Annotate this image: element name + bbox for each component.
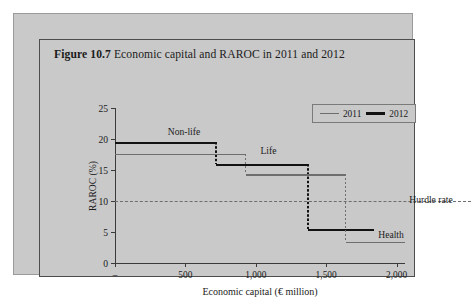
y-tick — [111, 139, 115, 140]
plot-area: RAROC (%) Economic capital (€ million) 0… — [115, 108, 405, 263]
series-2012-segment-health — [308, 229, 374, 231]
series-2011-connector-0 — [245, 154, 246, 174]
x-tick-label: 1,000 — [245, 270, 266, 280]
y-axis — [115, 108, 116, 263]
x-tick-label: – — [113, 270, 118, 280]
y-tick-label: 20 — [98, 134, 108, 145]
x-axis-label: Economic capital (€ million) — [202, 286, 317, 297]
series-2011-segment-life — [246, 174, 346, 175]
y-tick-label: 0 — [103, 258, 108, 269]
y-tick-label: 5 — [103, 227, 108, 238]
figure-box: Figure 10.7 Economic capital and RAROC i… — [39, 39, 415, 277]
y-tick-label: 15 — [98, 165, 108, 176]
x-tick — [185, 263, 186, 267]
figure-plate: Figure 10.7 Economic capital and RAROC i… — [13, 13, 413, 275]
x-tick-label: 2,000 — [386, 270, 407, 280]
y-axis-label: RAROC (%) — [87, 161, 98, 211]
annotation-life: Life — [260, 145, 276, 156]
x-tick — [326, 263, 327, 267]
figure-caption: Economic capital and RAROC in 2011 and 2… — [114, 48, 345, 61]
series-2011-segment-health — [346, 242, 405, 243]
x-tick — [256, 263, 257, 267]
y-tick-label: 25 — [98, 103, 108, 114]
annotation-non-life: Non-life — [168, 126, 201, 137]
y-tick — [111, 108, 115, 109]
x-tick — [115, 263, 116, 267]
annotation-health: Health — [378, 229, 404, 240]
y-tick — [111, 232, 115, 233]
x-tick-label: 1,500 — [316, 270, 337, 280]
y-tick-label: 10 — [98, 196, 108, 207]
figure-number: Figure 10.7 — [54, 48, 111, 61]
figure-title: Figure 10.7 Economic capital and RAROC i… — [54, 48, 345, 61]
x-tick — [397, 263, 398, 267]
series-2011-segment-non-life — [115, 154, 246, 155]
series-2012-segment-non-life — [115, 142, 216, 144]
series-2011-connector-1 — [345, 174, 346, 242]
x-tick-label: 500 — [178, 270, 192, 280]
y-tick — [111, 170, 115, 171]
annotation-hurdle-rate: Hurdle rate — [409, 194, 452, 205]
x-axis — [115, 263, 405, 264]
series-2012-segment-life — [216, 164, 308, 166]
